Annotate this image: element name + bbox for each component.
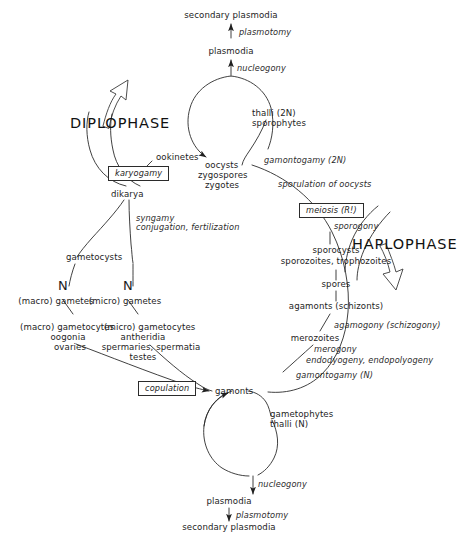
label-sporozoites-trophozoites: sporozoites, trophozoites bbox=[281, 256, 391, 266]
label-plasmodia-bottom: plasmodia bbox=[206, 496, 251, 506]
label-zygotes: zygotes bbox=[205, 180, 239, 190]
label-secondary-plasmodia-top: secondary plasmodia bbox=[184, 10, 278, 20]
box-copulation: copulation bbox=[138, 381, 196, 396]
label-plasmotomy-top: plasmotomy bbox=[239, 27, 291, 37]
label-macro-gametocytes: (macro) gametocytes bbox=[20, 322, 114, 332]
label-gamontogamy-n: gamontogamy (N) bbox=[296, 370, 373, 380]
label-plasmotomy-bottom: plasmotomy bbox=[236, 510, 288, 520]
label-macro-gametes: (macro) gametes bbox=[18, 296, 93, 306]
label-endodyogeny-endopolyogeny: endodyogeny, endopolyogeny bbox=[306, 355, 433, 365]
label-ovaries: ovaries bbox=[54, 342, 86, 352]
label-gametocysts: gametocysts bbox=[66, 252, 122, 262]
label-merogony: merogony bbox=[314, 344, 357, 354]
box-karyogamy: karyogamy bbox=[108, 166, 169, 181]
label-oogonia: oogonia bbox=[50, 332, 85, 342]
line-top-loop-arc bbox=[188, 76, 231, 157]
label-n-left: N bbox=[58, 281, 68, 291]
label-secondary-plasmodia-bottom: secondary plasmodia bbox=[182, 522, 276, 532]
label-nucleogony-bottom: nucleogony bbox=[258, 479, 307, 489]
label-haplophase: HAPLOPHASE bbox=[352, 239, 457, 249]
label-sporulation-of-oocysts: sporulation of oocysts bbox=[278, 179, 372, 189]
label-gametophytes: gametophytes bbox=[270, 409, 333, 419]
line-dikarya-to-syngamy bbox=[129, 200, 133, 263]
label-testes: testes bbox=[130, 352, 157, 362]
line-agamonts-to-merozoites bbox=[320, 314, 330, 331]
label-antheridia: antheridia bbox=[121, 332, 166, 342]
label-gamontogamy-2n: gamontogamy (2N) bbox=[264, 155, 346, 165]
label-spores: spores bbox=[322, 279, 351, 289]
label-conjugation-fertilization: conjugation, fertilization bbox=[136, 222, 240, 232]
label-micro-gametes: (micro) gametes bbox=[89, 296, 162, 306]
label-thalli-n: thalli (N) bbox=[270, 419, 308, 429]
label-sporogony: sporogony bbox=[334, 221, 378, 231]
label-dikarya: dikarya bbox=[111, 189, 144, 199]
label-spermaries-spermatia: spermaries, spermatia bbox=[102, 342, 201, 352]
line-bottom-loop-left bbox=[204, 391, 249, 476]
label-gamonts: gamonts bbox=[215, 386, 253, 396]
label-oocysts: oocysts bbox=[205, 160, 238, 170]
line-gametocysts-left-branch bbox=[69, 264, 75, 286]
label-zygospores: zygospores bbox=[198, 170, 248, 180]
label-micro-gametocytes: (micro) gametocytes bbox=[104, 322, 195, 332]
label-ookinetes: ookinetes bbox=[156, 152, 199, 162]
label-sporocysts: sporocysts bbox=[313, 245, 360, 255]
label-merozoites: merozoites bbox=[291, 333, 340, 343]
label-agamogony-schizogony: agamogony (schizogony) bbox=[334, 320, 441, 330]
label-diplophase: DIPLOPHASE bbox=[70, 118, 170, 128]
label-plasmodia-top: plasmodia bbox=[208, 46, 253, 56]
label-n-right: N bbox=[123, 281, 133, 291]
label-thalli-2n: thalli (2N) bbox=[252, 108, 296, 118]
label-sporophytes: sporophytes bbox=[252, 118, 306, 128]
box-meiosis: meiosis (R!) bbox=[299, 203, 364, 218]
line-bottom-loop-arrowback bbox=[204, 393, 228, 426]
line-dikarya-to-gametocysts bbox=[77, 200, 124, 257]
label-nucleogony-top: nucleogony bbox=[237, 63, 286, 73]
label-agamonts-schizonts: agamonts (schizonts) bbox=[289, 301, 383, 311]
